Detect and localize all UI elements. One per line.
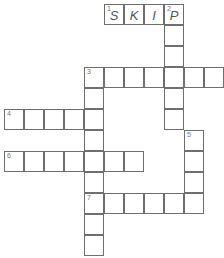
clue-number: 6 bbox=[7, 152, 11, 160]
crossword-cell[interactable] bbox=[164, 25, 184, 46]
crossword-cell[interactable] bbox=[164, 109, 184, 130]
cell-letter: P bbox=[165, 8, 183, 23]
crossword-cell[interactable] bbox=[164, 193, 184, 214]
clue-number: 4 bbox=[7, 110, 11, 118]
crossword-cell[interactable] bbox=[124, 67, 144, 88]
crossword-cell[interactable] bbox=[64, 151, 84, 172]
crossword-cell[interactable] bbox=[184, 151, 204, 172]
crossword-cell[interactable] bbox=[104, 67, 124, 88]
crossword-cell[interactable] bbox=[144, 67, 164, 88]
crossword-cell[interactable] bbox=[184, 193, 204, 214]
crossword-cell[interactable]: 4 bbox=[4, 109, 24, 130]
crossword-cell[interactable] bbox=[204, 67, 224, 88]
cell-letter: S bbox=[105, 8, 123, 23]
cell-letter: K bbox=[125, 8, 143, 23]
crossword-cell[interactable] bbox=[44, 151, 64, 172]
crossword-cell[interactable] bbox=[24, 151, 44, 172]
crossword-cell[interactable] bbox=[84, 172, 104, 193]
crossword-cell[interactable] bbox=[84, 151, 104, 172]
crossword-cell[interactable] bbox=[84, 130, 104, 151]
crossword-cell[interactable] bbox=[84, 88, 104, 109]
crossword-cell[interactable] bbox=[84, 109, 104, 130]
crossword-cell[interactable]: 2P bbox=[164, 4, 184, 25]
crossword-cell[interactable] bbox=[164, 67, 184, 88]
crossword-cell[interactable] bbox=[184, 67, 204, 88]
crossword-cell[interactable] bbox=[164, 88, 184, 109]
crossword-cell[interactable]: 6 bbox=[4, 151, 24, 172]
crossword-cell[interactable] bbox=[164, 46, 184, 67]
crossword-cell[interactable]: K bbox=[124, 4, 144, 25]
crossword-cell[interactable] bbox=[64, 109, 84, 130]
crossword-cell[interactable] bbox=[44, 109, 64, 130]
crossword-cell[interactable] bbox=[124, 193, 144, 214]
crossword-cell[interactable] bbox=[124, 151, 144, 172]
crossword-cell[interactable] bbox=[144, 193, 164, 214]
crossword-cell[interactable] bbox=[184, 172, 204, 193]
crossword-cell[interactable]: I bbox=[144, 4, 164, 25]
crossword-cell[interactable]: 7 bbox=[84, 193, 104, 214]
crossword-cell[interactable]: 3 bbox=[84, 67, 104, 88]
crossword-cell[interactable] bbox=[84, 214, 104, 235]
crossword-cell[interactable] bbox=[24, 109, 44, 130]
crossword-cell[interactable]: 1S bbox=[104, 4, 124, 25]
clue-number: 5 bbox=[187, 131, 191, 139]
cell-letter: I bbox=[145, 8, 163, 23]
crossword-cell[interactable] bbox=[104, 151, 124, 172]
clue-number: 7 bbox=[87, 194, 91, 202]
crossword-cell[interactable]: 5 bbox=[184, 130, 204, 151]
crossword-cell[interactable] bbox=[84, 235, 104, 256]
crossword-cell[interactable] bbox=[104, 193, 124, 214]
clue-number: 3 bbox=[87, 68, 91, 76]
